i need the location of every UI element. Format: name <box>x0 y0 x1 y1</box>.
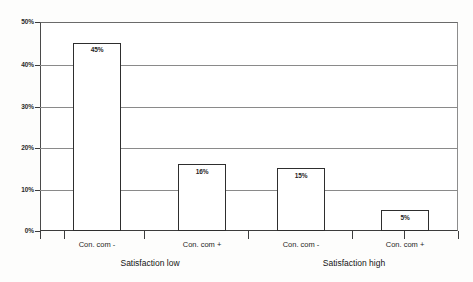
bar-chart: 50% 40% 30% 20% 10% 0% 45% 16% 15% 5% Co… <box>0 0 473 282</box>
category-label-3: Con. com - <box>261 240 341 249</box>
bar-value-label-1: 45% <box>73 46 121 53</box>
group-label-satisfaction-low: Satisfaction low <box>100 258 200 268</box>
ytick-label-20: 20% <box>0 144 34 151</box>
bar-value-label-4: 5% <box>381 214 429 221</box>
ytick-label-40: 40% <box>0 61 34 68</box>
bar-value-label-2: 16% <box>178 168 226 175</box>
ytick-label-50: 50% <box>0 18 34 25</box>
ytick-mark-30 <box>35 107 40 108</box>
ytick-mark-20 <box>35 148 40 149</box>
category-label-2: Con. com + <box>162 240 242 249</box>
group-label-satisfaction-high: Satisfaction high <box>304 258 404 268</box>
xtick-5 <box>404 231 405 239</box>
ytick-label-30: 30% <box>0 103 34 110</box>
category-label-1: Con. com - <box>57 240 137 249</box>
bar-value-label-3: 15% <box>277 172 325 179</box>
xtick-0 <box>40 231 41 239</box>
ytick-label-0: 0% <box>0 227 34 234</box>
xtick-2 <box>144 231 145 239</box>
ytick-mark-40 <box>35 65 40 66</box>
xtick-4 <box>352 231 353 239</box>
xtick-6 <box>458 231 459 239</box>
ytick-mark-10 <box>35 190 40 191</box>
xtick-1 <box>64 231 65 239</box>
ytick-label-10: 10% <box>0 186 34 193</box>
xtick-3 <box>248 231 249 239</box>
category-label-4: Con. com + <box>365 240 445 249</box>
bar-1 <box>73 43 121 231</box>
ytick-mark-50 <box>35 22 40 23</box>
